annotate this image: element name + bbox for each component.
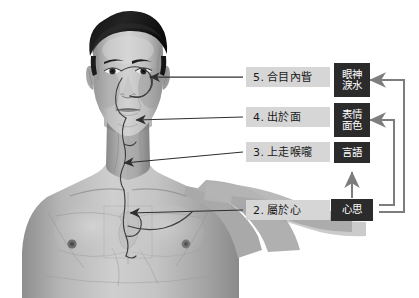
manifestation-box-biaoqing-miansa[interactable]: 表情 面色 <box>334 103 370 137</box>
head-group <box>86 11 170 136</box>
pathway-label-4[interactable]: 4. 出於面 <box>246 107 330 127</box>
pathway-label-5-text: 合目內眥 <box>267 72 313 83</box>
pathway-label-4-text: 出於面 <box>267 112 302 123</box>
pathway-label-2[interactable]: 2. 屬於心 <box>246 200 330 220</box>
manifestation-box-xinsi[interactable]: 心思 <box>331 199 373 221</box>
pathway-label-2-text: 屬於心 <box>267 205 302 216</box>
pathway-label-5[interactable]: 5. 合目內眥 <box>246 67 330 87</box>
manifestation-box-yanshen-leishui[interactable]: 眼神 淚水 <box>334 63 370 97</box>
pathway-label-3-text: 上走喉嚨 <box>267 147 313 158</box>
diagram-canvas: 5. 合目內眥 4. 出於面 3. 上走喉嚨 2. 屬於心 眼神 淚水 表情 面… <box>0 0 419 298</box>
manifestation-yanyu-line1: 言語 <box>342 147 363 159</box>
manifestation-biaoqing-line2: 面色 <box>342 120 363 132</box>
manifestation-box-yanyu[interactable]: 言語 <box>334 142 370 163</box>
pathway-label-3-number: 3. <box>253 147 265 158</box>
pathway-label-4-number: 4. <box>253 112 265 123</box>
manifestation-xinsi-line1: 心思 <box>342 204 363 216</box>
manifestation-yanshen-line2: 淚水 <box>342 80 363 92</box>
pathway-label-5-number: 5. <box>253 72 265 83</box>
pathway-label-3[interactable]: 3. 上走喉嚨 <box>246 142 330 162</box>
pathway-label-2-number: 2. <box>253 205 265 216</box>
